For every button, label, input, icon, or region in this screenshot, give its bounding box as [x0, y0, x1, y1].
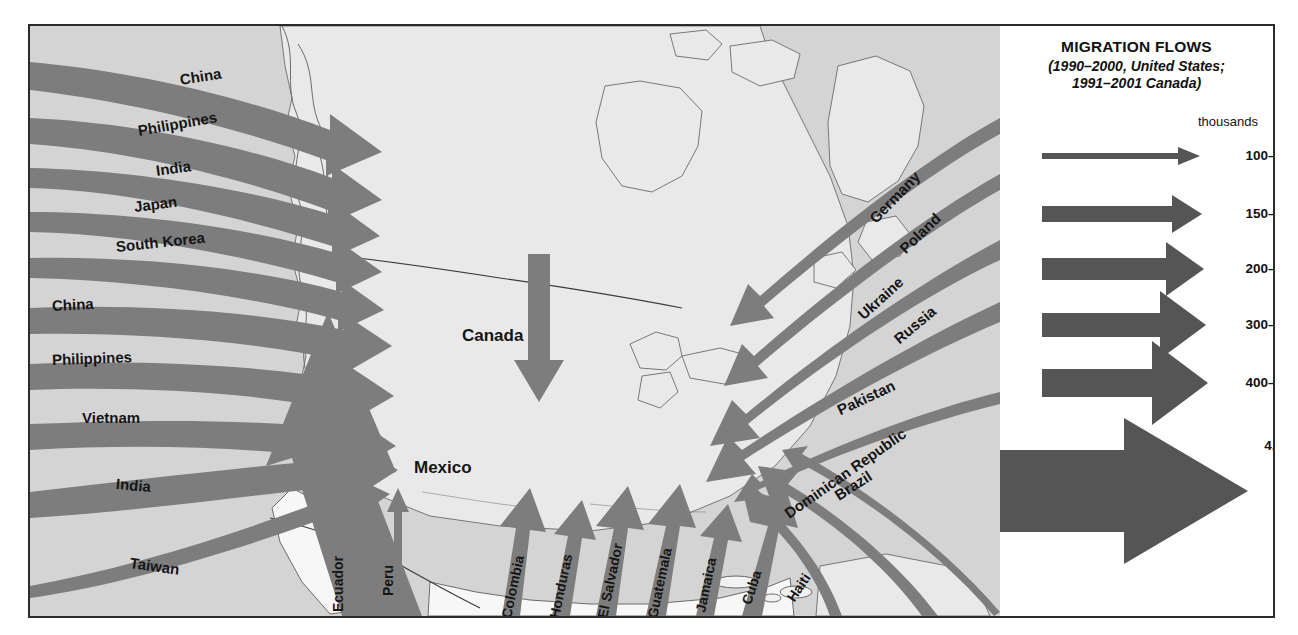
legend-arrow-200-299 [1042, 242, 1204, 296]
flow-label-vietnam: Vietnam [82, 409, 140, 426]
flow-label-canada: Canada [462, 326, 523, 346]
legend-label-150-199: 150–199 [1208, 206, 1273, 221]
legend-arrow-400-562 [1042, 341, 1208, 425]
legend-label-4443: 4,443 [1208, 438, 1273, 453]
flow-label-india-2: India [115, 475, 151, 495]
map-panel: China Philippines India Japan South Kore… [30, 26, 1000, 616]
flow-label-china-2: China [52, 295, 95, 314]
flow-label-mexico: Mexico [414, 458, 472, 478]
legend-label-200-299: 200–299 [1208, 261, 1273, 276]
flow-label-peru: Peru [380, 565, 396, 596]
map-frame: China Philippines India Japan South Kore… [28, 24, 1275, 618]
legend-label-300-399: 300–399 [1208, 317, 1273, 332]
legend-arrow-100-149 [1042, 147, 1200, 165]
flow-label-philippines-2: Philippines [52, 348, 133, 368]
migration-flows-map: China Philippines India Japan South Kore… [0, 0, 1298, 635]
flow-label-ecuador: Ecuador [330, 556, 346, 612]
legend-label-100-149: 100–149 [1208, 148, 1273, 163]
legend-arrow-300-399 [1042, 291, 1206, 359]
legend-panel: MIGRATION FLOWS (1990–2000, United State… [1000, 26, 1273, 616]
legend-label-400-562: 400–562 [1208, 375, 1273, 390]
legend-arrow-150-199 [1042, 195, 1202, 233]
